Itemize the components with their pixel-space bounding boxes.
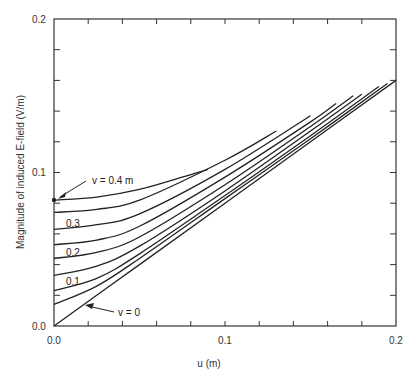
x-tick-label-mid: 0.1 xyxy=(218,335,232,346)
x-axis-title: u (m) xyxy=(197,358,220,369)
annotation-01: 0.1 xyxy=(66,276,80,287)
annotation-v04: v = 0.4 m xyxy=(92,175,133,186)
chart: 0.2 0.1 0.0 0.0 0.1 0.2 u (m) Magnitude … xyxy=(0,0,417,382)
y-tick-label-zero: 0.0 xyxy=(32,321,46,332)
y-axis-title: Magnitude of induced E-field (V/m) xyxy=(15,95,26,249)
arrowhead-v0-icon xyxy=(85,303,94,309)
arrowhead-v04-icon xyxy=(58,192,66,199)
curves xyxy=(54,80,396,326)
annotation-02: 0.2 xyxy=(66,247,80,258)
y-tick-label-top: 0.2 xyxy=(32,14,46,25)
curve-v0_35 xyxy=(54,131,276,212)
curve-v0 xyxy=(54,80,396,326)
x-tick-label-right: 0.2 xyxy=(389,335,403,346)
plot-frame xyxy=(54,19,396,326)
x-tick-label-zero: 0.0 xyxy=(47,335,61,346)
annotation-v0: v = 0 xyxy=(118,307,140,318)
axis-ticks xyxy=(54,19,396,326)
y-tick-label-mid: 0.1 xyxy=(32,167,46,178)
v04-marker xyxy=(52,198,56,202)
annotation-03: 0.3 xyxy=(66,218,80,229)
